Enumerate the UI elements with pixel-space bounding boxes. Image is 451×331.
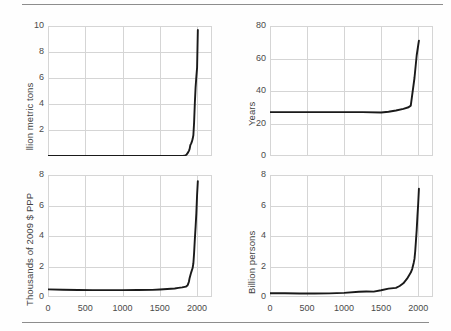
- x-tick-label: 2000: [181, 303, 213, 313]
- y-tick-label: 4: [246, 230, 266, 240]
- chart-svg-life: [270, 26, 433, 156]
- ylabel-clip-mask: [0, 150, 46, 165]
- x-tick-label: 500: [69, 303, 101, 313]
- chart-svg-co2: [48, 26, 212, 156]
- y-tick-label: 0: [24, 291, 44, 301]
- x-tick-label: 2000: [402, 303, 434, 313]
- x-tick-label: 0: [32, 303, 64, 313]
- y-tick-label: 2: [24, 261, 44, 271]
- x-tick-label: 0: [254, 303, 286, 313]
- panel-gdp: Thousands of 2009 $ PPP GDP per person 8…: [0, 164, 226, 314]
- plot-area-co2: [48, 26, 212, 156]
- y-tick-label: 4: [24, 98, 44, 108]
- chart-svg-gdp: [48, 175, 212, 297]
- y-tick-label: 6: [246, 200, 266, 210]
- x-tick-label: 500: [291, 303, 323, 313]
- x-tick-label: 1500: [365, 303, 397, 313]
- panel-life-expectancy: Years Life expectancy 806040200: [226, 14, 451, 164]
- y-tick-label: 2: [24, 124, 44, 134]
- figure-canvas: Billion metric tons CO2 emissions 108642…: [0, 0, 451, 331]
- y-tick-label: 20: [246, 118, 266, 128]
- panel-co2: Billion metric tons CO2 emissions 108642…: [0, 14, 226, 164]
- y-tick-label: 8: [246, 169, 266, 179]
- y-tick-label: 2: [246, 261, 266, 271]
- y-tick-label: 0: [246, 291, 266, 301]
- plot-frame: [49, 27, 212, 156]
- top-divider-rule: [22, 4, 443, 5]
- y-tick-label: 6: [24, 72, 44, 82]
- plot-area-gdp: [48, 175, 212, 297]
- chart-svg-population: [270, 175, 433, 297]
- panel-population: Billion persons Population 8642005001000…: [226, 164, 451, 314]
- axis-label-y-life: Years: [246, 36, 257, 126]
- x-tick-label: 1000: [328, 303, 360, 313]
- y-tick-label: 10: [24, 20, 44, 30]
- bottom-divider-rule: [22, 322, 429, 323]
- y-tick-label: 6: [24, 200, 44, 210]
- x-tick-label: 1500: [144, 303, 176, 313]
- y-tick-label: 80: [246, 20, 266, 30]
- y-tick-label: 0: [246, 150, 266, 160]
- y-tick-label: 60: [246, 53, 266, 63]
- y-tick-label: 40: [246, 85, 266, 95]
- y-tick-label: 4: [24, 230, 44, 240]
- x-tick-label: 1000: [107, 303, 139, 313]
- y-tick-label: 8: [24, 169, 44, 179]
- plot-area-population: [270, 175, 433, 297]
- y-tick-label: 8: [24, 46, 44, 56]
- plot-area-life: [270, 26, 433, 156]
- axis-label-y-co2: Billion metric tons: [24, 24, 35, 159]
